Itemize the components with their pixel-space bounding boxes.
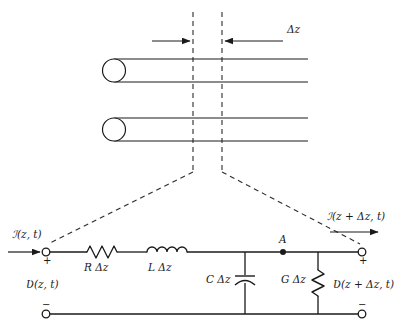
node-A-label: A: [279, 234, 287, 245]
input-voltage-label: Ʋ(z, t): [26, 279, 59, 290]
transmission-line-figure: Δz ℐ(z, t) ℐ(z + Δz, t) Ʋ(z, t) Ʋ(z + Δz…: [0, 0, 402, 332]
plus-sign-input: +: [43, 256, 51, 266]
capacitor-branch: [235, 252, 255, 314]
projection-line-left: [48, 172, 193, 244]
expansion-projection-lines: [48, 172, 360, 244]
node-A-dot: [280, 249, 286, 255]
section-boundary-lines: [193, 12, 222, 172]
conductor-upper: [103, 59, 309, 82]
output-current-label: ℐ(z + Δz, t): [327, 211, 385, 222]
minus-sign-input: −: [42, 300, 50, 310]
terminal-output-negative: [358, 310, 366, 318]
delta-z-label: Δz: [287, 24, 300, 35]
conductor-lower-end-cap: [103, 118, 126, 141]
resistor-R-delta-z: [87, 246, 117, 258]
conductance-branch: [312, 252, 324, 314]
resistor-G-delta-z: [312, 270, 324, 296]
capacitor-label: C Δz: [206, 274, 231, 285]
equivalent-circuit: [8, 232, 378, 318]
terminal-input-negative: [42, 310, 50, 318]
inductor-L-delta-z: [147, 247, 187, 252]
minus-sign-output: −: [358, 300, 366, 310]
inductor-label: L Δz: [148, 262, 171, 273]
projection-line-right: [222, 172, 360, 244]
upper-transmission-line: [103, 12, 309, 172]
output-voltage-label: Ʋ(z + Δz, t): [333, 279, 394, 290]
conductance-label: G Δz: [281, 274, 306, 285]
input-current-label: ℐ(z, t): [12, 229, 42, 240]
plus-sign-output: +: [359, 256, 367, 266]
conductor-upper-end-cap: [103, 59, 126, 82]
conductor-lower: [103, 118, 309, 141]
resistor-label: R Δz: [84, 262, 108, 273]
